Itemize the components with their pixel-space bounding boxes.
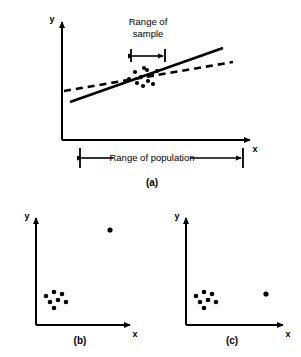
panel-c-outlier-point	[263, 291, 268, 296]
data-point	[210, 292, 215, 297]
panel-b: y x (b)	[24, 211, 137, 346]
panel-c-cluster	[194, 290, 219, 311]
panel-c-caption: (c)	[226, 335, 238, 346]
data-point	[206, 298, 211, 303]
panel-a-y-axis-label: y	[49, 14, 54, 24]
range-of-population-annotation: Range of population	[80, 148, 243, 168]
data-point	[52, 290, 57, 295]
data-point	[135, 81, 139, 85]
data-point	[60, 292, 65, 297]
data-point	[202, 290, 207, 295]
data-point	[141, 84, 145, 88]
range-of-sample-label-line1: Range of	[129, 16, 168, 27]
data-point	[198, 300, 203, 305]
data-point	[145, 68, 149, 72]
panel-c-x-axis-label: x	[285, 329, 290, 339]
panel-b-outlier-point	[107, 227, 112, 232]
panel-c: y x (c)	[174, 211, 290, 346]
data-point	[48, 300, 53, 305]
data-point	[150, 73, 154, 77]
data-point	[151, 82, 155, 86]
panel-c-y-axis-label: y	[174, 211, 179, 221]
range-of-sample-label-line2: sample	[133, 28, 164, 39]
data-point	[139, 75, 143, 79]
data-point	[64, 300, 69, 305]
data-point	[202, 306, 207, 311]
panel-b-y-axis-label: y	[24, 211, 29, 221]
panel-a: y x Range of sample	[49, 14, 257, 188]
population-regression-line-dashed	[64, 62, 233, 91]
statistics-figure: y x Range of sample	[0, 0, 301, 357]
panel-a-caption: (a)	[146, 177, 158, 188]
panel-b-cluster	[44, 290, 69, 311]
data-point	[194, 294, 199, 299]
data-point	[214, 300, 219, 305]
panel-b-x-axis-label: x	[132, 329, 137, 339]
data-point	[52, 306, 57, 311]
range-of-population-label: Range of population	[109, 152, 194, 163]
data-point	[155, 69, 159, 73]
figure-canvas: y x Range of sample	[0, 0, 301, 357]
data-point	[56, 298, 61, 303]
panel-a-x-axis-label: x	[252, 144, 257, 154]
data-point	[133, 70, 137, 74]
panel-b-caption: (b)	[74, 335, 87, 346]
panel-a-scatter-cluster	[127, 66, 159, 88]
data-point	[127, 77, 131, 81]
range-of-sample-annotation: Range of sample	[129, 16, 168, 62]
data-point	[146, 79, 150, 83]
data-point	[44, 294, 49, 299]
